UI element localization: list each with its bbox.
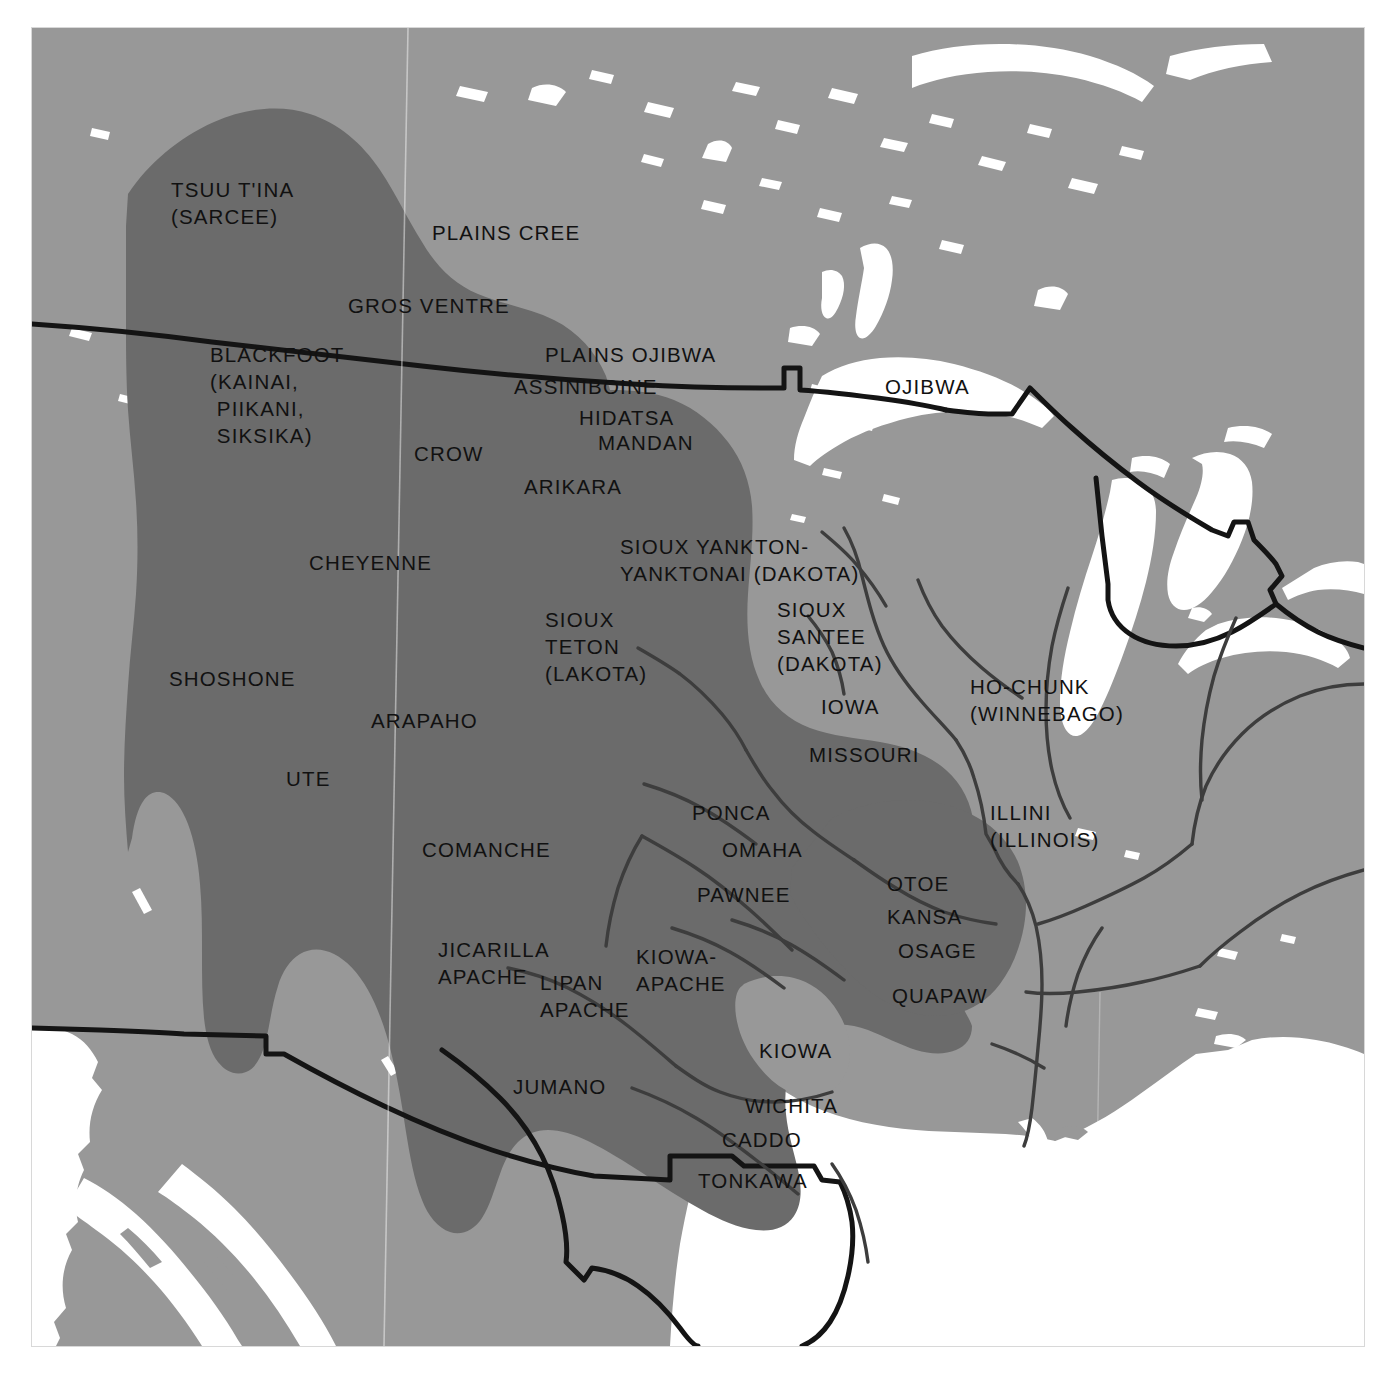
tribal-label-arapaho: ARAPAHO [371, 707, 478, 734]
tribal-label-wichita: WICHITA [745, 1092, 838, 1119]
tribal-label-lipan-apache: LIPAN APACHE [540, 969, 630, 1023]
tribal-label-plains-ojibwa: PLAINS OJIBWA [545, 341, 716, 368]
tribal-label-ho-chunk: HO-CHUNK (WINNEBAGO) [970, 673, 1124, 727]
map-frame: TSUU T'INA (SARCEE)PLAINS CREEGROS VENTR… [32, 28, 1364, 1346]
tribal-label-assiniboine: ASSINIBOINE [514, 373, 658, 400]
tribal-label-omaha: OMAHA [722, 836, 803, 863]
tribal-label-illini: ILLINI (ILLINOIS) [990, 799, 1099, 853]
tribal-label-caddo: CADDO [722, 1126, 802, 1153]
tribal-label-ute: UTE [286, 765, 330, 792]
tribal-label-iowa: IOWA [821, 693, 880, 720]
tribal-label-ojibwa: OJIBWA [885, 373, 970, 400]
tribal-label-mandan: MANDAN [598, 429, 694, 456]
tribal-label-quapaw: QUAPAW [892, 982, 988, 1009]
tribal-label-blackfoot: BLACKFOOT (KAINAI, PIIKANI, SIKSIKA) [210, 341, 345, 449]
tribal-label-tonkawa: TONKAWA [698, 1167, 808, 1194]
tribal-label-sioux-santee: SIOUX SANTEE (DAKOTA) [777, 596, 883, 677]
tribal-label-pawnee: PAWNEE [697, 881, 790, 908]
tribal-label-comanche: COMANCHE [422, 836, 551, 863]
coastal-lagoon-a [904, 1147, 944, 1160]
tribal-label-kiowa-apache: KIOWA- APACHE [636, 943, 726, 997]
tribal-label-osage: OSAGE [898, 937, 977, 964]
tribal-label-otoe: OTOE [887, 870, 949, 897]
tribal-label-tsuu-tina: TSUU T'INA (SARCEE) [171, 176, 294, 230]
tribal-label-shoshone: SHOSHONE [169, 665, 296, 692]
tribal-label-jicarilla-apache: JICARILLA APACHE [438, 936, 550, 990]
tribal-label-plains-cree: PLAINS CREE [432, 219, 580, 246]
coastal-lagoon-b [962, 1135, 1002, 1148]
tribal-label-jumano: JUMANO [513, 1073, 606, 1100]
tribal-label-kansa: KANSA [887, 903, 962, 930]
tribal-label-sioux-teton: SIOUX TETON (LAKOTA) [545, 606, 647, 687]
tribal-label-hidatsa: HIDATSA [579, 404, 674, 431]
tribal-label-crow: CROW [414, 440, 484, 467]
tribal-label-ponca: PONCA [692, 799, 771, 826]
tribal-label-missouri: MISSOURI [809, 741, 920, 768]
tribal-label-cheyenne: CHEYENNE [309, 549, 432, 576]
tribal-label-gros-ventre: GROS VENTRE [348, 292, 510, 319]
tribal-label-sioux-yankton: SIOUX YANKTON- YANKTONAI (DAKOTA) [620, 533, 859, 587]
tribal-label-kiowa: KIOWA [759, 1037, 832, 1064]
map-root: TSUU T'INA (SARCEE)PLAINS CREEGROS VENTR… [0, 0, 1386, 1376]
tribal-label-arikara: ARIKARA [524, 473, 622, 500]
